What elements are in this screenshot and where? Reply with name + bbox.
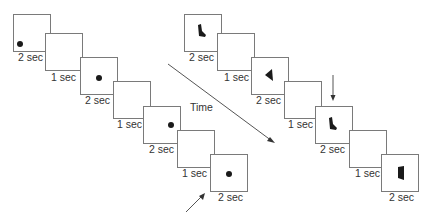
pointer-arrow-icon	[186, 196, 202, 212]
left-frame-6	[178, 131, 215, 168]
right-frame-1	[185, 15, 222, 52]
left-frame-5	[144, 107, 181, 144]
duration-label: 1 sec	[51, 71, 76, 83]
right-frame-7	[382, 155, 419, 192]
left-frame-2	[46, 34, 83, 71]
left-frame-3	[81, 58, 118, 95]
quadrilateral-stimulus	[398, 166, 404, 180]
duration-label: 2 sec	[320, 143, 345, 155]
target-arrow-left	[186, 193, 205, 212]
duration-label: 1 sec	[117, 118, 142, 130]
right-frame-5	[316, 107, 353, 144]
dot-stimulus	[226, 171, 232, 177]
arrowhead-icon	[199, 193, 205, 200]
duration-label: 1 sec	[224, 71, 249, 83]
duration-label: 2 sec	[256, 94, 281, 106]
duration-label: 2 sec	[85, 94, 110, 106]
right-frame-3	[252, 58, 289, 95]
dot-stimulus	[96, 75, 102, 81]
right-frame-2	[218, 34, 255, 71]
dot-stimulus	[17, 41, 23, 47]
target-arrow-right	[331, 75, 336, 101]
stimulus-sequence-diagram: 2 sec 1 sec 2 sec 1 sec 2 sec 1 sec 2 se…	[0, 0, 432, 223]
duration-label: 2 sec	[18, 51, 43, 63]
duration-label: 1 sec	[355, 167, 380, 179]
dot-stimulus	[168, 122, 174, 128]
left-frame-1	[14, 15, 51, 52]
arrowhead-icon	[331, 95, 336, 101]
duration-label: 2 sec	[149, 143, 174, 155]
time-label: Time	[190, 101, 213, 113]
duration-label: 1 sec	[182, 167, 207, 179]
right-frame-6	[350, 131, 387, 168]
left-frame-7	[211, 155, 248, 192]
duration-label: 2 sec	[189, 51, 214, 63]
duration-label: 2 sec	[218, 191, 243, 203]
duration-label: 1 sec	[288, 118, 313, 130]
duration-label: 2 sec	[389, 191, 414, 203]
